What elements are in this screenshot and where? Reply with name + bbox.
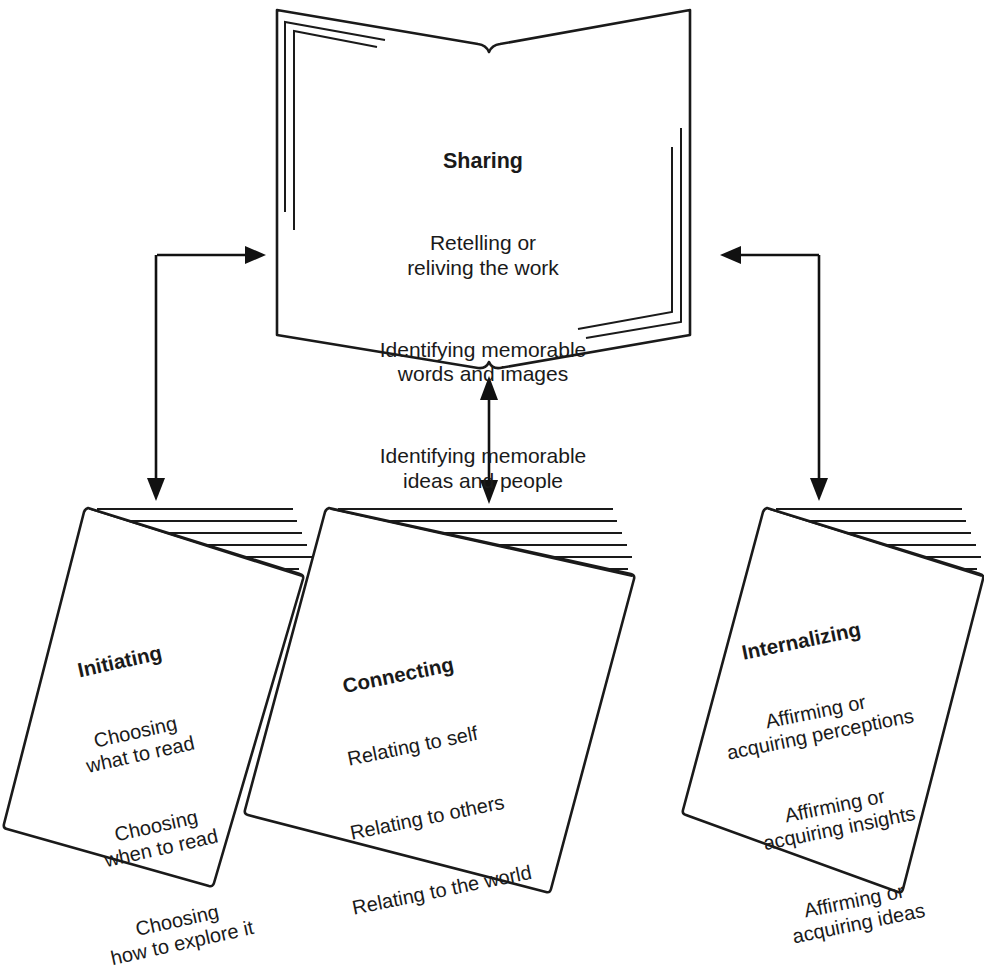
connecting-title: Connecting [273, 639, 523, 712]
arrow-head-down [810, 478, 828, 501]
sharing-line-3: Identifying memorable ideas and people [323, 444, 643, 493]
connector-sharing-internalizing [720, 246, 828, 501]
connecting-line-2: Relating to others [302, 782, 552, 855]
initiating-line-3: Choosing how to explore it [53, 882, 307, 969]
connecting-line-1: Relating to self [288, 710, 538, 783]
sharing-line-1: Retelling or reliving the work [323, 231, 643, 280]
arrow-head-right [245, 246, 266, 264]
internalizing-title: Internalizing [676, 605, 926, 678]
internalizing-line-2: Affirming or acquiring insights [710, 770, 964, 865]
sharing-text-block: Sharing Retelling or reliving the work I… [323, 100, 643, 542]
initiating-title: Initiating [0, 623, 244, 700]
arrow-head-down [147, 478, 165, 501]
connecting-line-3: Relating to the world [317, 854, 567, 927]
initiating-line-1: Choosing what to read [11, 693, 265, 792]
sharing-line-2: Identifying memorable words and images [323, 338, 643, 387]
sharing-title: Sharing [323, 149, 643, 174]
internalizing-line-3: Affirming or acquiring ideas [729, 865, 983, 960]
initiating-line-2: Choosing when to read [32, 788, 286, 887]
connector-sharing-initiating [147, 246, 266, 501]
internalizing-line-1: Affirming or acquiring perceptions [691, 675, 945, 770]
arrow-head-left [720, 246, 741, 264]
